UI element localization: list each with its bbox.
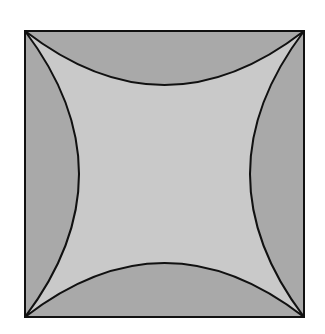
concave-square-diagram [0,0,325,334]
